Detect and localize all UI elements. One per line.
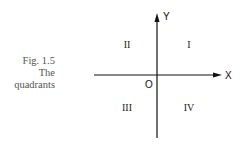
quadrant-diagram: Y X O II I III IV bbox=[0, 0, 243, 146]
x-axis-arrowhead-icon bbox=[213, 73, 222, 78]
y-axis-label: Y bbox=[163, 11, 170, 22]
origin-label: O bbox=[145, 79, 153, 90]
quadrant-iii-label: III bbox=[122, 102, 132, 113]
quadrant-i-label: I bbox=[187, 39, 190, 50]
y-axis-arrowhead-icon bbox=[155, 13, 160, 22]
quadrant-ii-label: II bbox=[124, 39, 131, 50]
x-axis-label: X bbox=[225, 70, 232, 81]
quadrant-iv-label: IV bbox=[184, 102, 195, 113]
